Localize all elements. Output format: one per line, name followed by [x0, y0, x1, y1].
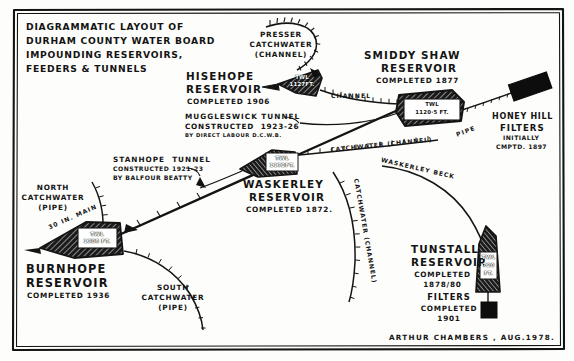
diagram-artwork	[0, 0, 574, 361]
burnhope-twl-label: TWL	[80, 231, 114, 238]
tunstall-twl-value-1: 720	[480, 262, 497, 269]
diagram-page: DIAGRAMMATIC LAYOUT OF DURHAM COUNTY WAT…	[0, 0, 574, 361]
tunstall-filter-block	[481, 302, 497, 318]
tunstall-twl-label: TWL	[480, 254, 497, 261]
hisehope-twl-value: 1127FT.	[284, 81, 320, 88]
tunstall-twl-value-2: FT.	[480, 270, 497, 277]
burnhope-twl-value: 1305 FT.	[78, 238, 116, 245]
hisehope-twl-label: TWL	[286, 74, 318, 81]
waskerley-twl-value: 1172FT.	[264, 162, 300, 169]
waskerley-twl-label: TWL	[266, 155, 298, 162]
smiddy-shaw-twl-label: TWL	[404, 99, 460, 110]
smiddy-shaw-twl-value: 1120·5 FT.	[404, 109, 460, 116]
